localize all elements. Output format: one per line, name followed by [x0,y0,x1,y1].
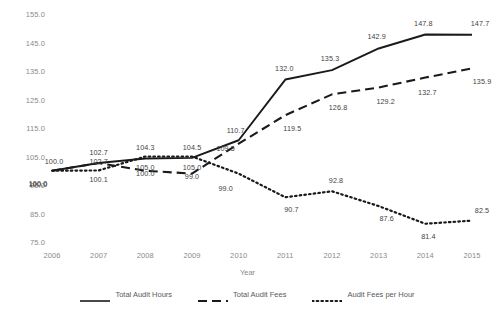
data-point-label: 102.7 [89,157,108,166]
legend-label: Audit Fees per Hour [347,290,414,299]
x-axis-tick-label: 2010 [230,251,247,260]
data-point-label: 147.7 [471,18,490,27]
x-axis-tick-label: 2011 [277,251,294,260]
data-point-label: 102.7 [89,148,108,157]
x-axis-tick-label: 2006 [43,251,60,260]
data-point-label: 81.4 [421,231,435,240]
data-point-label: 82.5 [475,205,489,214]
series-line [52,68,472,173]
chart-legend: Total Audit HoursTotal Audit FeesAudit F… [0,290,495,299]
data-point-label: 132.7 [418,87,437,96]
series-line [52,35,472,171]
y-axis-tick-label: 85.0 [30,209,45,218]
y-axis-tick-label: 145.0 [26,38,45,47]
data-point-label: 105.0 [136,162,155,171]
legend-item[interactable]: Total Audit Fees [198,290,286,299]
legend-label: Total Audit Fees [233,290,286,299]
y-axis-tick-label: 75.0 [30,238,45,247]
data-point-label: 129.2 [376,96,395,105]
x-axis-title: Year [0,268,495,277]
series-lines [52,14,472,242]
x-axis-tick-label: 2015 [463,251,480,260]
data-point-label: 135.3 [321,54,340,63]
data-point-label: 119.5 [283,124,301,133]
legend-swatch-solid [80,291,110,299]
x-axis-tick-label: 2009 [183,251,200,260]
y-axis-tick-label: 135.0 [26,67,45,76]
y-axis-tick-label: 155.0 [26,10,45,19]
data-point-label: 92.8 [329,176,343,185]
data-point-label: 109.5 [216,143,235,152]
x-axis-tick-label: 2008 [137,251,154,260]
data-point-label: 142.9 [367,32,386,41]
legend-label: Total Audit Hours [115,290,172,299]
x-axis-tick-label: 2013 [370,251,387,260]
x-axis-tick-label: 2014 [417,251,434,260]
legend-swatch-dashed [198,291,228,299]
data-point-label: 105.0 [183,162,202,171]
data-point-label: 100.0 [45,156,64,165]
data-point-label: 104.3 [136,143,155,152]
y-axis-tick-label: 125.0 [26,95,45,104]
plot-area: 155.0145.0135.0125.0115.0105.095.085.075… [52,14,472,242]
data-point-label: 99.0 [185,171,199,180]
legend-swatch-dotted [312,291,342,299]
data-point-label: 147.8 [414,18,433,27]
data-point-label: 99.0 [218,183,232,192]
line-chart: 155.0145.0135.0125.0115.0105.095.085.075… [0,0,495,317]
data-point-label: 135.9 [473,77,492,86]
y-axis-tick-label: 105.0 [26,152,45,161]
data-point-label: 104.5 [183,142,202,151]
data-point-label: 90.7 [284,205,298,214]
data-point-label: 100.0 [29,179,48,188]
x-axis-tick-label: 2007 [90,251,107,260]
x-axis-tick-label: 2012 [323,251,340,260]
legend-item[interactable]: Audit Fees per Hour [312,290,414,299]
data-point-label: 87.6 [379,214,393,223]
legend-item[interactable]: Total Audit Hours [80,290,172,299]
y-axis-tick-label: 115.0 [26,124,45,133]
data-point-label: 126.8 [329,103,348,112]
data-point-label: 132.0 [275,63,294,72]
data-point-label: 100.1 [89,175,108,184]
data-point-label: 110.7 [227,126,245,135]
